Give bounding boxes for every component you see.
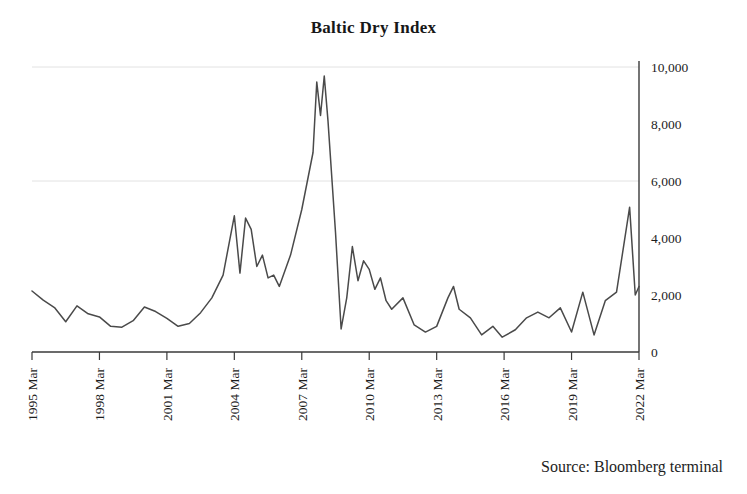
y-tick-label: 8,000 [651,117,682,132]
x-tick-label: 2004 Mar [227,368,242,421]
y-tick-label: 6,000 [651,174,682,189]
source-note: Source: Bloomberg terminal [541,458,723,476]
y-tick-label: 10,000 [651,60,688,75]
y-axis-group: 02,0004,0006,0008,00010,000 [639,60,688,360]
baltic-dry-index-figure: Baltic Dry Index 02,0004,0006,0008,00010… [0,0,747,494]
x-tick-label: 1998 Mar [92,368,107,421]
x-tick-label: 2016 Mar [497,368,512,421]
x-tick-label: 2019 Mar [565,368,580,421]
y-tick-label: 4,000 [651,231,682,246]
x-tick-label: 2013 Mar [430,368,445,421]
x-tick-label: 1995 Mar [25,368,40,421]
y-tick-label: 0 [651,345,658,360]
x-tick-label: 2022 Mar [632,368,647,421]
data-series-group [32,76,639,337]
x-axis-group: 1995 Mar1998 Mar2001 Mar2004 Mar2007 Mar… [25,352,647,421]
gridlines-group [32,67,639,181]
x-tick-label: 2007 Mar [295,368,310,421]
x-tick-label: 2001 Mar [160,368,175,421]
x-tick-label: 2010 Mar [362,368,377,421]
y-tick-label: 2,000 [651,288,682,303]
chart-plot-area: 02,0004,0006,0008,00010,000 1995 Mar1998… [0,0,747,494]
series-line-baltic-dry-index [32,76,639,337]
